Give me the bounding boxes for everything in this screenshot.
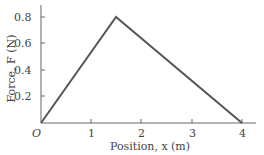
origin-label: O [32,128,41,139]
y-ticks [41,17,45,96]
y-tick-label: 0.8 [14,12,32,23]
x-tick-label: 2 [138,128,145,139]
force-curve [41,17,242,123]
y-axis-label: Force, F (N) [5,35,18,103]
x-ticks [91,119,242,123]
x-tick-label: 4 [239,128,246,139]
x-tick-label: 3 [189,128,196,139]
x-tick-label: 1 [88,128,95,139]
x-axis-label: Position, x (m) [110,141,190,152]
